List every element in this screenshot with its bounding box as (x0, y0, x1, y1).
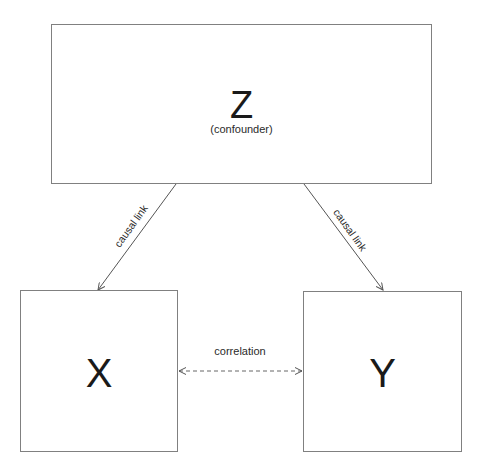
edge-label-causal-link-right: causal link (331, 207, 368, 253)
node-y-label: Y (304, 353, 461, 393)
node-y: Y (303, 291, 462, 452)
edge-label-causal-link-left: causal link (112, 203, 149, 249)
causal-arrow-z-to-y (304, 184, 383, 290)
node-z-sublabel: (confounder) (52, 124, 431, 135)
node-x: X (20, 290, 178, 452)
causal-arrow-z-to-x (98, 184, 176, 290)
edge-label-correlation: correlation (214, 346, 265, 357)
node-x-label: X (21, 353, 177, 393)
node-z-confounder: Z (confounder) (51, 24, 432, 184)
node-z-label: Z (52, 86, 431, 124)
